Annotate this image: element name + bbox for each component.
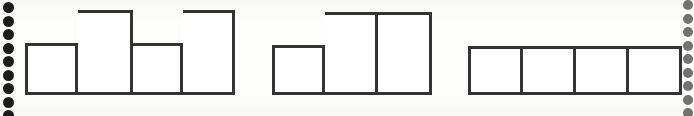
bar [325, 12, 378, 95]
bar-group-3 [468, 46, 682, 95]
binding-hole-icon [3, 97, 14, 108]
binding-hole-icon [683, 95, 693, 105]
bar [183, 10, 235, 95]
bar [272, 45, 325, 95]
binding-hole-icon [683, 0, 693, 10]
bar [576, 46, 629, 95]
binding-hole-icon [3, 110, 14, 116]
bar-group-1 [25, 10, 235, 95]
binding-hole-icon [683, 68, 693, 78]
binding-hole-icon [683, 27, 693, 37]
bar [523, 46, 576, 95]
binding-hole-icon [3, 29, 14, 40]
binding-hole-icon [3, 43, 14, 54]
binding-hole-icon [683, 41, 693, 51]
bar [378, 12, 432, 95]
binding-hole-icon [683, 108, 693, 116]
bar-group-2 [272, 12, 432, 95]
bar [25, 43, 78, 95]
worksheet-page [0, 0, 694, 116]
left-binding-holes [0, 0, 22, 116]
bar [133, 43, 183, 95]
binding-hole-icon [683, 54, 693, 64]
binding-hole-icon [683, 81, 693, 91]
binding-hole-icon [3, 83, 14, 94]
binding-hole-icon [3, 70, 14, 81]
bar [468, 46, 523, 95]
binding-hole-icon [3, 56, 14, 67]
binding-hole-icon [3, 2, 14, 13]
binding-hole-icon [3, 16, 14, 27]
bar [78, 10, 133, 95]
binding-hole-icon [683, 14, 693, 24]
bar [629, 46, 682, 95]
